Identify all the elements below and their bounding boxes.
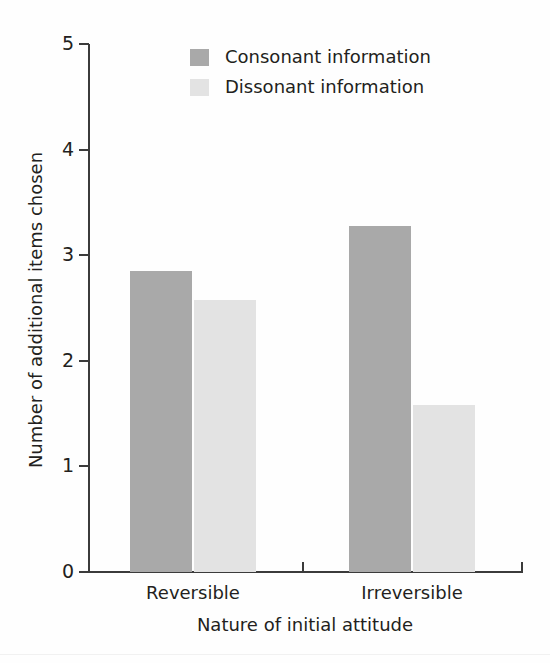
chart-legend: Consonant informationDissonant informati… xyxy=(190,42,431,102)
bar-reversible-consonant xyxy=(130,271,192,572)
bar-irreversible-dissonant xyxy=(413,405,475,572)
legend-item-dissonant: Dissonant information xyxy=(190,72,431,102)
bar-chart-figure: 012345 ReversibleIrreversible Nature of … xyxy=(0,0,550,663)
x-category-label-irreversible: Irreversible xyxy=(312,582,512,604)
legend-swatch-icon xyxy=(190,79,209,96)
y-axis-title: Number of additional items chosen xyxy=(26,50,46,570)
legend-swatch-icon xyxy=(190,49,209,66)
legend-label: Dissonant information xyxy=(225,77,424,97)
bar-irreversible-consonant xyxy=(349,226,411,572)
legend-item-consonant: Consonant information xyxy=(190,42,431,72)
bar-reversible-dissonant xyxy=(194,300,256,572)
legend-label: Consonant information xyxy=(225,47,431,67)
x-axis-title: Nature of initial attitude xyxy=(88,614,522,636)
x-category-label-reversible: Reversible xyxy=(93,582,293,604)
bottom-divider xyxy=(0,654,550,655)
